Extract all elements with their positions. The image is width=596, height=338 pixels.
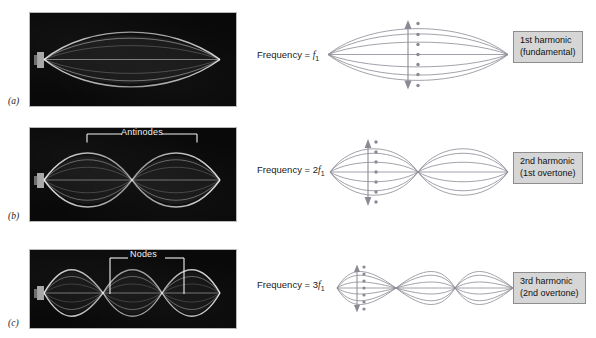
harmonic-alt-1: (fundamental) <box>520 47 576 59</box>
antinodes-label: Antinodes <box>121 127 163 137</box>
nodes-label: Nodes <box>130 249 157 259</box>
harmonic-label-1: 1st harmonic (fundamental) <box>513 31 583 63</box>
harmonic-alt-2: (1st overtone) <box>520 168 576 180</box>
panel-label-c: (c) <box>8 318 19 328</box>
frequency-prefix-2: Frequency = <box>257 164 313 175</box>
frequency-sub-3: 1 <box>321 285 325 292</box>
harmonic-name-2: 2nd harmonic <box>520 156 575 166</box>
photo-string-a <box>30 13 236 106</box>
frequency-label-2: Frequency = 2f1 <box>257 164 325 177</box>
photo-first-harmonic <box>30 13 236 106</box>
amplitude-dots-1 <box>416 22 419 87</box>
diagram-second-harmonic <box>326 130 514 218</box>
frequency-prefix-3: Frequency = <box>257 279 313 290</box>
standing-wave-figure: (a) Frequency <box>0 0 596 338</box>
double-headed-amplitude-arrow-3 <box>354 265 360 313</box>
harmonic-label-3: 3rd harmonic (2nd overtone) <box>513 272 586 304</box>
panel-label-b: (b) <box>8 211 19 221</box>
frequency-label-1: Frequency = f1 <box>257 49 319 62</box>
harmonic-name-3: 3rd harmonic <box>520 276 573 286</box>
diagram-first-harmonic <box>322 8 514 104</box>
frequency-prefix-1: Frequency = <box>257 49 313 60</box>
harmonic-label-2: 2nd harmonic (1st overtone) <box>513 152 583 184</box>
harmonic-alt-3: (2nd overtone) <box>520 288 579 300</box>
panel-label-a: (a) <box>8 96 19 106</box>
frequency-sub-1: 1 <box>315 55 319 62</box>
frequency-sub-2: 1 <box>321 170 325 177</box>
amplitude-dots-2 <box>374 140 377 203</box>
diagram-third-harmonic <box>334 258 516 320</box>
harmonic-name-1: 1st harmonic <box>520 35 572 45</box>
frequency-label-3: Frequency = 3f1 <box>257 279 325 292</box>
